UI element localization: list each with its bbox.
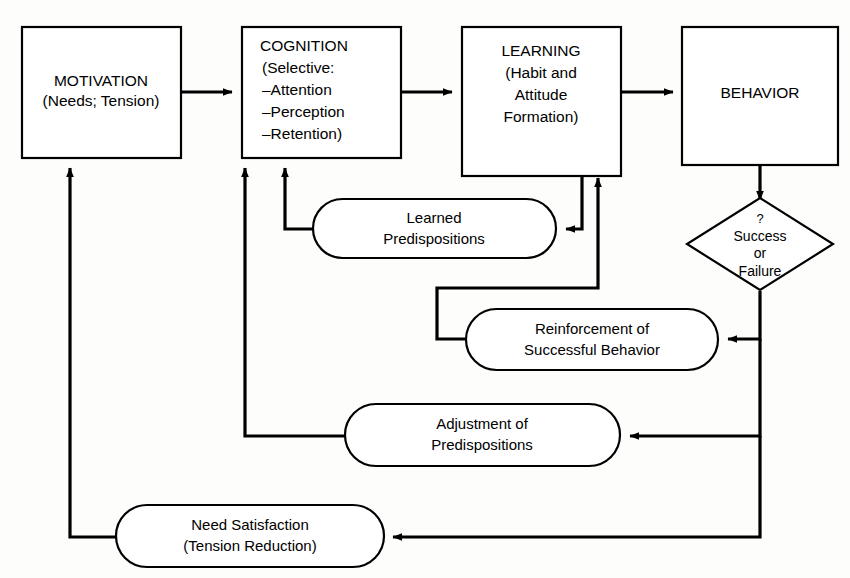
reinforcement-line-2: Successful Behavior <box>524 341 660 358</box>
reinforcement-line-1: Reinforcement of <box>535 320 650 337</box>
node-adjustment[interactable]: Adjustment of Predispositions <box>345 404 620 466</box>
cognition-line-5: –Retention) <box>262 125 342 142</box>
node-motivation[interactable]: MOTIVATION (Needs; Tension) <box>22 27 181 158</box>
edge-need-satisfaction-to-motivation <box>70 168 116 537</box>
decision-line-1: Success <box>734 228 787 244</box>
flowchart-diagram: MOTIVATION (Needs; Tension) COGNITION (S… <box>0 0 850 578</box>
decision-line-2: or <box>754 245 767 261</box>
edge-learned-predispositions-to-cognition <box>285 168 313 229</box>
adjustment-line-1: Adjustment of <box>436 415 529 432</box>
cognition-line-3: –Attention <box>262 81 332 98</box>
learning-line-4: Formation) <box>504 108 579 125</box>
node-behavior[interactable]: BEHAVIOR <box>682 27 838 165</box>
behavior-line-1: BEHAVIOR <box>721 84 800 101</box>
motivation-line-1: MOTIVATION <box>54 72 148 89</box>
learned-predispositions-line-1: Learned <box>406 209 461 226</box>
node-learning[interactable]: LEARNING (Habit and Attitude Formation) <box>462 27 621 176</box>
learning-line-2: (Habit and <box>505 64 577 81</box>
cognition-line-4: –Perception <box>262 103 345 120</box>
learning-line-1: LEARNING <box>501 42 580 59</box>
decision-line-3: Failure <box>739 263 782 279</box>
cognition-line-2: (Selective: <box>262 59 334 76</box>
motivation-line-2: (Needs; Tension) <box>43 92 160 109</box>
node-learned-predispositions[interactable]: Learned Predispositions <box>313 199 556 258</box>
learning-line-3: Attitude <box>515 86 568 103</box>
need-satisfaction-line-1: Need Satisfaction <box>191 516 309 533</box>
node-cognition[interactable]: COGNITION (Selective: –Attention –Percep… <box>242 27 401 158</box>
node-decision-success-or-failure[interactable]: ? Success or Failure <box>687 198 833 290</box>
decision-question-mark: ? <box>756 211 763 226</box>
adjustment-line-2: Predispositions <box>431 436 533 453</box>
cognition-line-1: COGNITION <box>260 37 348 54</box>
node-need-satisfaction[interactable]: Need Satisfaction (Tension Reduction) <box>116 505 384 567</box>
need-satisfaction-line-2: (Tension Reduction) <box>183 537 316 554</box>
node-reinforcement[interactable]: Reinforcement of Successful Behavior <box>466 309 718 370</box>
edge-decision-to-reinforcement <box>728 291 760 339</box>
learned-predispositions-line-2: Predispositions <box>383 230 485 247</box>
edge-learning-to-learned-predispositions <box>566 176 582 229</box>
flowchart-canvas: MOTIVATION (Needs; Tension) COGNITION (S… <box>0 0 850 578</box>
